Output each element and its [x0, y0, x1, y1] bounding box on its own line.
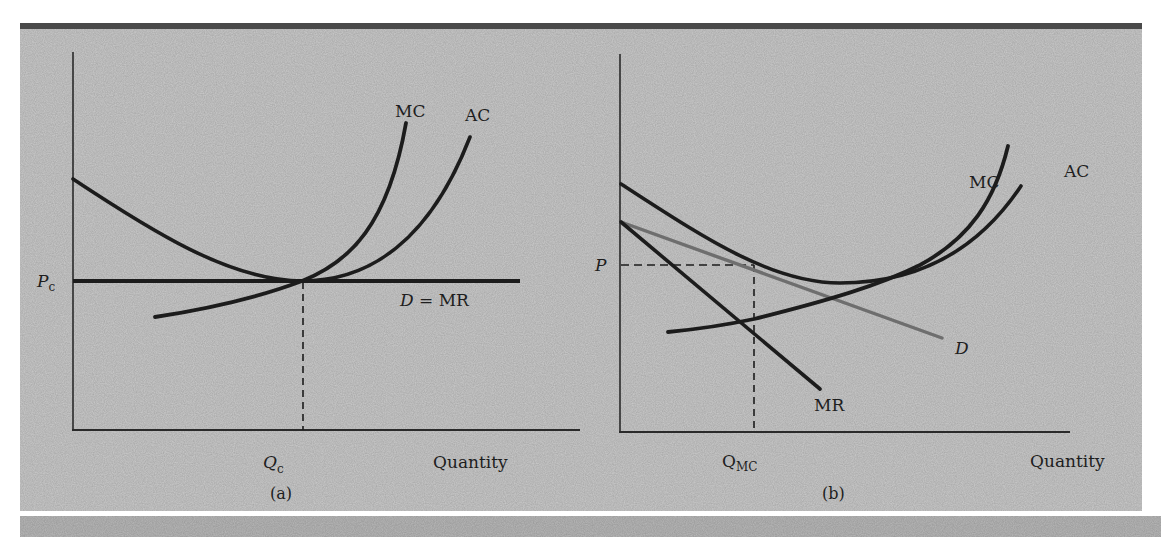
panel-b-caption: (b): [822, 484, 845, 503]
panel-b-demand-label: D: [954, 338, 969, 358]
top-rule: [20, 23, 1142, 29]
panel-a-caption: (a): [270, 484, 292, 503]
panel-b-qmc-sub: MC: [736, 460, 757, 474]
panel-b-ac-label: AC: [1063, 161, 1089, 181]
panel-b-mr-label: MR: [814, 395, 845, 415]
panel-a-qc-sub: c: [277, 462, 284, 476]
panel-a-qc-main: Q: [263, 452, 277, 472]
panel-b-mc-label: MC: [969, 172, 999, 192]
panel-grain: [20, 28, 1142, 511]
panel-a-demand-label-mr: = MR: [414, 290, 470, 310]
panel-b-p-label: P: [594, 255, 607, 275]
panel-a-ac-label: AC: [464, 105, 490, 125]
panel-b-x-axis-label: Quantity: [1030, 451, 1105, 471]
monopolistic-competition-figure: MC AC D = MR Pc Qc Quantity (a) MC AC: [0, 0, 1161, 537]
panel-b-qmc-main: Q: [722, 451, 736, 471]
bottom-band-grain: [20, 516, 1161, 537]
panel-a-x-axis-label: Quantity: [433, 452, 508, 472]
panel-a-pc-sub: c: [48, 280, 55, 294]
panel-a-mc-label: MC: [395, 101, 425, 121]
panel-a-pc-main: P: [36, 271, 49, 291]
panel-a-demand-label-d: D: [399, 290, 414, 310]
panel-a-demand-label: D = MR: [399, 290, 470, 310]
